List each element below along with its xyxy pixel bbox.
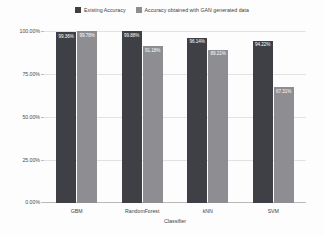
bar-value-label: 91.18% <box>143 48 163 53</box>
bar-group-gbm: 99.36% 99.78% GBM <box>44 31 110 203</box>
legend-item-gan-accuracy: Accuracy obtained with GAN generated dat… <box>136 7 249 13</box>
bar-gan-gbm[interactable]: 99.78% <box>77 31 97 203</box>
ytick-label-75: 75.00% <box>22 71 40 77</box>
bar-value-label: 99.36% <box>56 34 76 39</box>
bar-existing-knn[interactable]: 96.14% <box>187 38 207 203</box>
bar-existing-gbm[interactable]: 99.36% <box>56 32 76 203</box>
bar-gan-randomforest[interactable]: 91.18% <box>143 46 163 203</box>
bar-group-svm: 94.22% 67.31% SVM <box>241 31 307 203</box>
bar-value-label: 99.78% <box>77 33 97 38</box>
chart-legend: Existing Accuracy Accuracy obtained with… <box>0 7 324 13</box>
xtick-label-svm: SVM <box>241 208 307 214</box>
legend-swatch-icon <box>136 7 142 13</box>
bar-existing-svm[interactable]: 94.22% <box>253 41 273 203</box>
bar-existing-randomforest[interactable]: 99.88% <box>122 31 142 203</box>
legend-label: Existing Accuracy <box>84 7 126 13</box>
x-axis-title: Classifier <box>44 218 306 225</box>
ytick-label-25: 25.00% <box>22 157 40 163</box>
bar-groups: 99.36% 99.78% GBM 99.88% 91.18% RandomFo… <box>44 31 306 203</box>
xtick-label-knn: kNN <box>175 208 241 214</box>
legend-item-existing-accuracy: Existing Accuracy <box>75 7 126 13</box>
ytick-label-100: 100.00% <box>20 28 40 34</box>
bar-group-randomforest: 99.88% 91.18% RandomForest <box>110 31 176 203</box>
bar-value-label: 99.88% <box>122 33 142 38</box>
plot-area: 100.00% 75.00% 50.00% 25.00% 0.00% 99.36… <box>44 31 306 203</box>
ytick-label-50: 50.00% <box>22 114 40 120</box>
legend-label: Accuracy obtained with GAN generated dat… <box>145 7 249 13</box>
bar-gan-svm[interactable]: 67.31% <box>274 87 294 203</box>
bar-value-label: 67.31% <box>274 89 294 94</box>
bar-chart: Existing Accuracy Accuracy obtained with… <box>0 0 324 236</box>
xtick-label-gbm: GBM <box>44 208 110 214</box>
ytick-label-0: 0.00% <box>25 199 40 205</box>
bar-value-label: 94.22% <box>253 42 273 47</box>
xtick-label-randomforest: RandomForest <box>110 208 176 214</box>
bar-value-label: 89.21% <box>208 51 228 56</box>
bar-group-knn: 96.14% 89.21% kNN <box>175 31 241 203</box>
legend-swatch-icon <box>75 7 81 13</box>
bar-value-label: 96.14% <box>187 39 207 44</box>
bar-gan-knn[interactable]: 89.21% <box>208 50 228 203</box>
